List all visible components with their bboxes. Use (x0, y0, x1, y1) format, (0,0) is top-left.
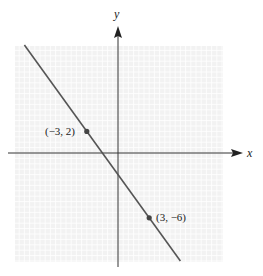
point-b-marker (147, 215, 152, 220)
point-a-label: (−3, 2) (45, 125, 75, 138)
grid (15, 46, 223, 262)
point-b-label: (3, −6) (156, 211, 186, 224)
coordinate-plane: x y (−3, 2) (3, −6) (0, 0, 263, 276)
x-axis-label: x (246, 146, 253, 160)
point-a-marker (84, 129, 89, 134)
y-axis-label: y (113, 7, 120, 21)
